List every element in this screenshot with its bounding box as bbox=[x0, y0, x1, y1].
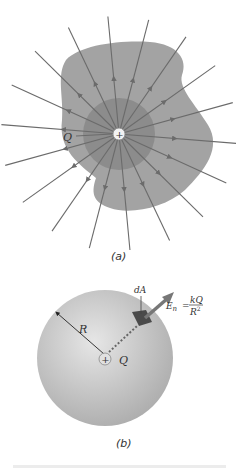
field-direction-arrow-icon bbox=[87, 179, 88, 181]
figure-b: R dA En = kQ R2 + Q (b) bbox=[0, 250, 236, 472]
denominator: R2 bbox=[189, 305, 201, 317]
charge-label: Q bbox=[119, 354, 128, 367]
area-label: dA bbox=[134, 285, 147, 295]
field-lines-diagram: Q + bbox=[0, 0, 236, 250]
field-direction-arrow-icon bbox=[68, 111, 70, 112]
field-direction-arrow-icon bbox=[171, 119, 173, 120]
charge-sign: + bbox=[101, 354, 109, 365]
field-direction-arrow-icon bbox=[142, 183, 143, 185]
field-direction-arrow-icon bbox=[168, 157, 170, 158]
charge-sign: + bbox=[115, 129, 123, 140]
field-direction-arrow-icon bbox=[95, 83, 96, 85]
numerator: kQ bbox=[190, 295, 203, 305]
field-direction-arrow-icon bbox=[105, 186, 106, 188]
radius-label: R bbox=[78, 323, 87, 336]
field-label: En bbox=[165, 301, 178, 313]
figure-a: Q + (a) bbox=[0, 0, 236, 250]
field-direction-arrow-icon bbox=[133, 80, 134, 82]
divider bbox=[13, 465, 226, 468]
field-direction-arrow-icon bbox=[73, 165, 75, 166]
caption-b: (b) bbox=[116, 437, 132, 450]
equals-sign: = bbox=[182, 301, 190, 311]
charge-label: Q bbox=[63, 131, 72, 144]
field-direction-arrow-icon bbox=[65, 148, 67, 149]
